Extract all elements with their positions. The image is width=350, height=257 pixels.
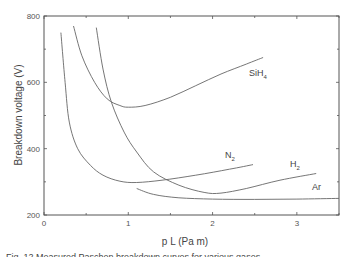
series-labels: SiH4N2H2Ar: [225, 68, 321, 192]
axis-ticks: 0123200400600800: [27, 12, 339, 228]
y-axis-title: Breakdown voltage (V): [13, 64, 24, 165]
curve-h2: [96, 28, 316, 194]
y-tick-label: 600: [27, 78, 41, 87]
x-tick-label: 0: [42, 219, 47, 228]
figure-caption: Fig. 12 Measured Paschen breakdown curve…: [6, 250, 346, 257]
label-sih4: SiH4: [249, 68, 268, 80]
x-tick-label: 3: [295, 219, 300, 228]
curve-n2: [61, 33, 253, 183]
label-h2: H2: [290, 159, 301, 171]
paschen-chart: 0123200400600800 SiH4N2H2Ar p L (Pa m) B…: [0, 0, 350, 257]
curve-sih4: [74, 26, 264, 107]
data-curves: [61, 26, 339, 199]
y-tick-label: 800: [27, 12, 41, 21]
x-tick-label: 1: [126, 219, 131, 228]
label-n2: N2: [225, 150, 236, 162]
plot-frame: [44, 16, 339, 215]
x-axis-title: p L (Pa m): [162, 236, 208, 247]
label-ar: Ar: [312, 182, 321, 192]
y-tick-label: 400: [27, 145, 41, 154]
x-tick-label: 2: [210, 219, 215, 228]
y-tick-label: 200: [27, 211, 41, 220]
